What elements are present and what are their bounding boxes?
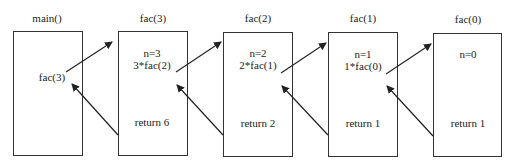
frame-title-fac1: fac(1)	[323, 12, 403, 24]
fac1-expr-text: 1*fac(0)	[323, 60, 403, 72]
frame-title-fac2: fac(2)	[218, 12, 298, 24]
frame-title-fac3: fac(3)	[113, 12, 193, 24]
fac2-expr-text: 2*fac(1)	[218, 59, 298, 71]
frame-title-main: main()	[7, 12, 87, 24]
fac1-return-text: return 1	[323, 117, 403, 129]
fac2-return-text: return 2	[218, 117, 298, 129]
frame-title-fac0: fac(0)	[428, 13, 508, 25]
fac3-return-text: return 6	[112, 116, 192, 128]
fac0-n-text: n=0	[428, 48, 508, 60]
frame-main	[13, 31, 83, 156]
main-call-text: fac(3)	[12, 71, 92, 83]
fac3-n-text: n=3	[112, 47, 192, 59]
fac2-n-text: n=2	[218, 47, 298, 59]
fac3-expr-text: 3*fac(2)	[112, 59, 192, 71]
fac1-n-text: n=1	[323, 48, 403, 60]
fac0-return-text: return 1	[428, 117, 508, 129]
